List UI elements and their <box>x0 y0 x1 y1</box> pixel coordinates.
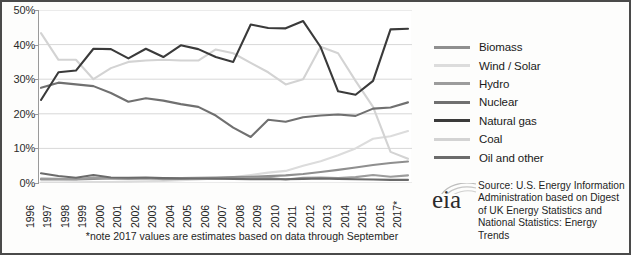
y-tick-label: 30% <box>14 73 35 85</box>
x-tick-label: 1996 <box>24 205 36 228</box>
x-tick-label: 2004 <box>164 205 176 228</box>
y-tick-label: 50% <box>14 4 35 16</box>
eia-logo: eia <box>432 178 478 212</box>
plot-area <box>38 10 411 183</box>
plot-svg <box>39 10 412 183</box>
x-tick-label: 2003 <box>146 205 158 228</box>
legend-swatch-icon <box>434 46 470 49</box>
legend-item[interactable]: Oil and other <box>434 148 624 166</box>
legend-label: Biomass <box>479 41 522 53</box>
x-tick-label: 2017* <box>391 201 403 228</box>
legend-label: Coal <box>479 133 502 145</box>
x-tick-label: 2009 <box>251 205 263 228</box>
x-tick-label: 2015 <box>356 205 368 228</box>
x-tick-label: 2016 <box>374 205 386 228</box>
legend-label: Nuclear <box>479 96 518 108</box>
x-tick-label: 2012 <box>304 205 316 228</box>
x-tick-label: 2005 <box>181 205 193 228</box>
x-tick-label: 2008 <box>234 205 246 228</box>
y-tick-label: 20% <box>14 108 35 120</box>
x-tick-label: 2014 <box>339 205 351 228</box>
chart-figure: 0%10%20%30%40%50% 1996199719981999200020… <box>0 0 631 255</box>
x-axis: 1996199719981999200020012002200320042005… <box>38 184 411 228</box>
y-tick-label: 0% <box>20 177 36 189</box>
legend-item[interactable]: Hydro <box>434 75 624 93</box>
legend-item[interactable]: Coal <box>434 130 624 148</box>
legend-swatch-icon <box>434 119 470 122</box>
series-line-coal <box>41 33 408 159</box>
x-tick-label: 2001 <box>111 205 123 228</box>
legend: BiomassWind / SolarHydroNuclearNatural g… <box>434 38 624 167</box>
legend-swatch-icon <box>434 138 470 141</box>
x-tick-label: 2011 <box>286 206 298 228</box>
legend-swatch-icon <box>434 82 470 85</box>
x-tick-label: 1998 <box>59 205 71 228</box>
legend-item[interactable]: Nuclear <box>434 93 624 111</box>
legend-item[interactable]: Biomass <box>434 38 624 56</box>
x-tick-label: 2006 <box>199 205 211 228</box>
x-tick-label: 1997 <box>41 205 53 228</box>
legend-swatch-icon <box>434 101 470 104</box>
legend-item[interactable]: Wind / Solar <box>434 56 624 74</box>
series-line-nuclear <box>41 83 408 137</box>
legend-swatch-icon <box>434 64 470 67</box>
source-block: eia Source: U.S. Energy Information Admi… <box>432 178 627 242</box>
x-tick-label: 2002 <box>129 205 141 228</box>
swoosh-icon <box>438 178 478 194</box>
chart-footnote: *note 2017 values are estimates based on… <box>62 230 422 242</box>
legend-label: Wind / Solar <box>479 60 540 72</box>
source-text: Source: U.S. Energy Information Administ… <box>478 178 627 242</box>
x-tick-label: 1999 <box>76 205 88 228</box>
y-tick-label: 10% <box>14 142 35 154</box>
x-tick-label: 2007 <box>216 205 228 228</box>
legend-label: Natural gas <box>479 115 537 127</box>
legend-swatch-icon <box>434 156 470 159</box>
legend-item[interactable]: Natural gas <box>434 112 624 130</box>
legend-label: Hydro <box>479 78 509 90</box>
x-tick-label: 2013 <box>321 205 333 228</box>
y-tick-label: 40% <box>14 39 35 51</box>
legend-label: Oil and other <box>479 152 544 164</box>
x-tick-label: 2010 <box>269 205 281 228</box>
x-tick-label: 2000 <box>94 205 106 228</box>
y-axis: 0%10%20%30%40%50% <box>2 10 35 183</box>
